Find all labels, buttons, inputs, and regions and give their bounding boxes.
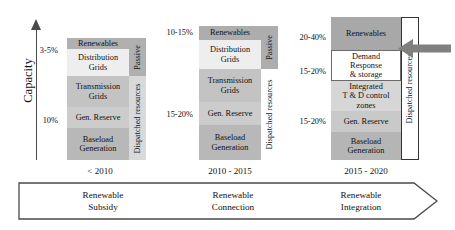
stack-col-2015-2020: Renewables DemandResponse& storage Integ… (331, 17, 401, 160)
tick-col2-renewables: 10-15% (148, 28, 193, 37)
tick-col3-gen-reserve: 15-20% (281, 117, 326, 126)
timeline-stage-1: Renewable Subsidy (38, 190, 168, 213)
tick-col3-renewables: 20-40% (281, 33, 326, 42)
sidelabel-col2-passive-text: Passive (265, 35, 274, 60)
band-col3-renewables-label: Renewables (346, 29, 386, 38)
band-col2-gen-reserve-label: Gen. Reserve (208, 109, 253, 118)
band-col2-baseload-generation-label: BaseloadGeneration (212, 133, 249, 151)
tick-col1-gen-reserve: 10% (22, 116, 58, 125)
diagram-canvas: Capacity 3-5% 10% Renewables Distributio… (0, 0, 455, 230)
period-label-col3: 2015 - 2020 (323, 166, 409, 176)
tick-col3-demand-response: 15-20% (281, 67, 326, 76)
timeline-stage-2-line2: Connection (168, 202, 298, 214)
period-label-col1: < 2010 (60, 166, 140, 176)
band-col3-gen-reserve: Gen. Reserve (331, 111, 401, 132)
band-col2-transmission-grids-label: TransmissionGrids (208, 76, 252, 94)
band-col1-gen-reserve-label: Gen. Reserve (76, 113, 121, 122)
stack-col-2010-2015: Renewables DistributionGrids Transmissio… (199, 26, 261, 160)
sidelabel-col1-dispatched-text: Dispatched resources (133, 83, 142, 153)
band-col1-transmission-grids: TransmissionGrids (67, 76, 129, 107)
band-col1-distribution-grids: DistributionGrids (67, 49, 129, 76)
timeline-stage-3: Renewable Integration (296, 190, 426, 213)
band-col1-renewables: Renewables (67, 38, 129, 49)
emphasis-arrow (398, 38, 451, 59)
band-col2-transmission-grids: TransmissionGrids (199, 69, 261, 102)
sidelabel-col1-passive: Passive (129, 38, 146, 76)
period-label-col2: 2010 - 2015 (190, 166, 270, 176)
band-col3-integrated-td-control-zones: IntegratedT & D controlzones (331, 81, 401, 111)
stack-col-2010: Renewables DistributionGrids Transmissio… (67, 38, 129, 160)
band-col3-baseload-generation-label: BaseloadGeneration (348, 137, 385, 155)
timeline-stage-3-line1: Renewable (296, 190, 426, 202)
band-col1-distribution-grids-label: DistributionGrids (78, 53, 118, 71)
sidelabel-col1-passive-text: Passive (133, 45, 142, 70)
band-col3-demand-response-storage-label: DemandResponse& storage (350, 52, 383, 79)
band-col1-renewables-label: Renewables (78, 39, 118, 48)
timeline-stage-3-line2: Integration (296, 202, 426, 214)
tick-col2-gen-reserve: 15-20% (148, 110, 193, 119)
band-col2-gen-reserve: Gen. Reserve (199, 102, 261, 125)
band-col2-distribution-grids-label: DistributionGrids (210, 45, 250, 63)
band-col3-demand-response-storage: DemandResponse& storage (331, 50, 401, 81)
timeline-stage-2-line1: Renewable (168, 190, 298, 202)
band-col1-baseload-generation-label: BaseloadGeneration (80, 135, 117, 153)
tick-col1-renewables: 3-5% (22, 46, 58, 55)
band-col1-gen-reserve: Gen. Reserve (67, 107, 129, 128)
band-col3-gen-reserve-label: Gen. Reserve (344, 117, 389, 126)
band-col2-baseload-generation: BaseloadGeneration (199, 125, 261, 160)
timeline-stage-1-line2: Subsidy (38, 202, 168, 214)
band-col2-renewables: Renewables (199, 26, 261, 40)
timeline-stage-1-line1: Renewable (38, 190, 168, 202)
band-col3-integrated-td-control-zones-label: IntegratedT & D controlzones (342, 82, 389, 109)
sidelabel-col2-dispatched: Dispatched resources (261, 69, 278, 160)
sidelabel-col3-dispatched-text: Dispatched resources (406, 54, 415, 124)
sidelabel-col2-passive: Passive (261, 26, 278, 69)
band-col1-transmission-grids-label: TransmissionGrids (76, 82, 120, 100)
band-col3-baseload-generation: BaseloadGeneration (331, 132, 401, 160)
band-col2-distribution-grids: DistributionGrids (199, 40, 261, 69)
band-col1-baseload-generation: BaseloadGeneration (67, 128, 129, 160)
sidelabel-col2-dispatched-text: Dispatched resources (265, 80, 274, 150)
band-col2-renewables-label: Renewables (210, 28, 250, 37)
sidelabel-col1-dispatched: Dispatched resources (129, 76, 146, 160)
timeline-stage-2: Renewable Connection (168, 190, 298, 213)
band-col3-renewables: Renewables (331, 17, 401, 50)
